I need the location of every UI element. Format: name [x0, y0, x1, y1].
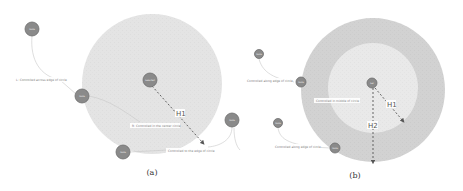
edge-label: Controlled along edge of circle	[275, 145, 321, 149]
figure-canvas: H1 Selected Node Node Node Node L: Contr…	[0, 0, 463, 191]
node-text: Node	[298, 81, 304, 84]
edge-label: L: Controlled across edge of circle	[16, 78, 67, 82]
node-text: Sel	[370, 82, 374, 85]
node-text: Node	[120, 151, 126, 154]
edge	[208, 127, 232, 147]
panel-b: H1 H2 Sel Node Node Node Node Controlled…	[234, 18, 445, 180]
edge-label: Controlled to the edge of circle	[168, 149, 215, 153]
node-center[interactable]: Selected	[143, 73, 157, 87]
node-n3[interactable]: Node	[274, 119, 283, 128]
node-text: Node	[275, 122, 281, 125]
edge-label: R: Controlled in the center circle	[132, 124, 181, 128]
node-right[interactable]: Node	[225, 113, 239, 127]
edge	[32, 36, 76, 94]
node-n2[interactable]: Node	[296, 77, 306, 87]
node-bottom[interactable]: Node	[116, 145, 130, 159]
edge	[234, 128, 240, 150]
panel-a: H1 Selected Node Node Node Node L: Contr…	[14, 14, 239, 177]
edge-label: Controlled in middle of circle	[316, 99, 359, 103]
node-text: Node	[29, 28, 35, 31]
node-n1[interactable]: Node	[255, 50, 264, 59]
node-left[interactable]: Node	[75, 89, 89, 103]
node-center[interactable]: Sel	[367, 78, 377, 88]
distance-label-h1: H1	[176, 110, 186, 118]
distance-label-h2: H2	[368, 122, 378, 130]
distance-label-h1: H1	[387, 101, 397, 109]
node-text: Node	[229, 119, 235, 122]
node-text: Selected	[145, 79, 155, 82]
caption-a: (a)	[146, 168, 157, 177]
node-text: Node	[79, 95, 85, 98]
node-n4[interactable]: Node	[330, 143, 340, 153]
node-top-left[interactable]: Node	[25, 22, 39, 36]
caption-b: (b)	[349, 171, 360, 180]
node-text: Node	[332, 147, 338, 150]
node-text: Node	[256, 53, 262, 56]
edge-label: Controlled along edge of circle	[247, 79, 293, 83]
